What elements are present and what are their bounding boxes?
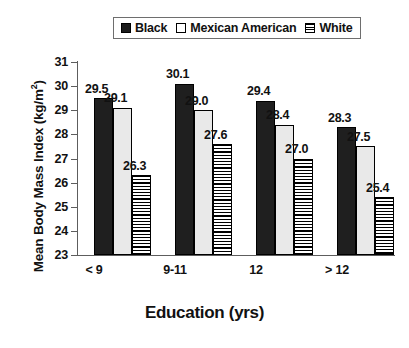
- y-axis-tick-label: 25: [44, 201, 68, 214]
- bar-mexican-american: [113, 108, 132, 255]
- y-axis-tick-label: 29: [44, 104, 68, 117]
- bar-value-label: 28.4: [266, 109, 289, 122]
- bar-white: [375, 197, 394, 255]
- plot-area: 29.529.126.330.129.027.629.428.427.028.3…: [77, 62, 395, 255]
- bar-chart-figure: Black Mexican American White Mean Body M…: [0, 0, 409, 348]
- legend-swatch-black-icon: [121, 23, 131, 33]
- bar-black: [94, 98, 113, 255]
- legend-label-mexican-american: Mexican American: [190, 22, 296, 35]
- x-tick-label-1: 9-11: [130, 264, 220, 277]
- bar-value-label: 28.3: [328, 112, 351, 125]
- bar-value-label: 27.6: [204, 129, 227, 142]
- bar-value-label: 29.4: [247, 85, 270, 98]
- bar-black: [256, 101, 275, 255]
- x-tick-label-0: < 9: [49, 264, 139, 277]
- bar-group: 29.428.427.0: [256, 62, 313, 255]
- y-axis-tick-label: 31: [44, 56, 68, 69]
- bar-white: [294, 159, 313, 256]
- legend-swatch-open-icon: [176, 23, 186, 33]
- y-axis-tick-label: 24: [44, 225, 68, 238]
- y-axis-tick-label: 27: [44, 153, 68, 166]
- legend-label-white: White: [319, 22, 352, 35]
- legend-item-mexican-american: Mexican American: [176, 22, 296, 35]
- y-axis-tick-label: 28: [44, 128, 68, 141]
- bar-value-label: 27.0: [285, 143, 308, 156]
- x-tick-label-2: 12: [211, 264, 301, 277]
- x-tick-label-3: > 12: [292, 264, 382, 277]
- bar-mexican-american: [356, 146, 375, 255]
- bar-value-label: 25.4: [366, 182, 389, 195]
- x-axis-line: [77, 255, 395, 256]
- bar-group: 30.129.027.6: [175, 62, 232, 255]
- bar-value-label: 27.5: [347, 131, 370, 144]
- y-axis-tick-label: 23: [44, 249, 68, 262]
- legend-item-white: White: [305, 22, 352, 35]
- legend-item-black: Black: [121, 22, 167, 35]
- legend-label-black: Black: [135, 22, 167, 35]
- bar-group: 28.327.525.4: [337, 62, 394, 255]
- y-axis-tick-label: 26: [44, 177, 68, 190]
- bar-white: [213, 144, 232, 255]
- bar-value-label: 30.1: [166, 68, 189, 81]
- bar-value-label: 29.1: [104, 92, 127, 105]
- bar-group: 29.529.126.3: [94, 62, 151, 255]
- bar-white: [132, 175, 151, 255]
- bar-value-label: 29.0: [185, 95, 208, 108]
- y-axis-tick-label: 30: [44, 80, 68, 93]
- legend-swatch-striped-icon: [305, 23, 315, 33]
- bar-black: [337, 127, 356, 255]
- bar-black: [175, 84, 194, 255]
- bar-value-label: 26.3: [123, 160, 146, 173]
- y-axis-tick-mark: [71, 255, 77, 256]
- y-axis-title-superscript: 2: [29, 84, 39, 89]
- chart-legend: Black Mexican American White: [113, 17, 361, 39]
- x-axis-title: Education (yrs): [0, 303, 409, 323]
